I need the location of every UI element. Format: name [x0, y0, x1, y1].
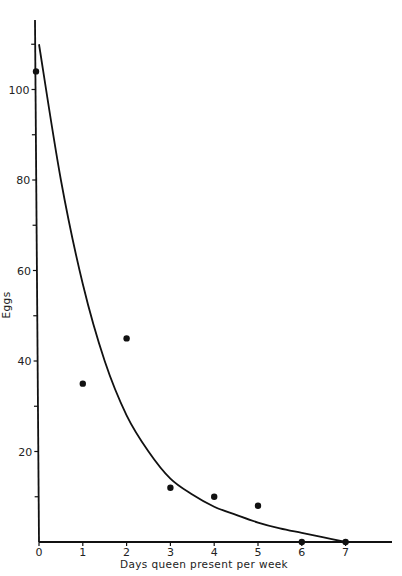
data-point: [342, 539, 348, 545]
data-point: [80, 380, 86, 386]
y-tick-label: 100: [9, 84, 30, 97]
x-tick-label: 6: [298, 546, 305, 559]
data-point: [255, 503, 261, 509]
data-point: [211, 494, 217, 500]
y-tick-label: 80: [16, 174, 30, 187]
fitted-curve: [39, 44, 346, 542]
axis-ticks: 2040608010001234567: [9, 44, 350, 559]
x-tick-label: 1: [79, 546, 86, 559]
y-axis-line: [35, 20, 39, 542]
x-tick-label: 7: [342, 546, 349, 559]
fitted-curve-path: [39, 44, 346, 542]
data-point: [123, 335, 129, 341]
data-point: [167, 485, 173, 491]
data-point: [299, 539, 305, 545]
data-points: [33, 68, 349, 545]
chart: 2040608010001234567 Days queen present p…: [0, 0, 402, 576]
y-axis-title: Eggs: [0, 291, 12, 318]
y-tick-label: 20: [18, 446, 32, 459]
y-tick-label: 60: [17, 265, 31, 278]
y-tick-label: 40: [18, 355, 32, 368]
x-tick-label: 0: [36, 546, 43, 559]
x-axis-title: Days queen present per week: [120, 558, 289, 570]
axes: [35, 20, 392, 542]
data-point: [33, 68, 39, 74]
